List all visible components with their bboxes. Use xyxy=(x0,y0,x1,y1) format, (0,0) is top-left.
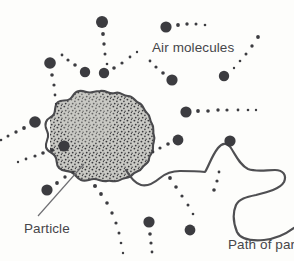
molecule-trail xyxy=(93,184,124,254)
brownian-motion-diagram: Air molecules Particle Path of partic xyxy=(0,0,294,261)
air-molecule xyxy=(96,16,108,28)
air-molecule xyxy=(44,57,56,69)
molecule-trail xyxy=(168,176,194,215)
molecule-trail xyxy=(149,60,165,75)
label-air-molecules: Air molecules xyxy=(152,41,234,55)
molecule-trail xyxy=(61,54,77,67)
air-molecule xyxy=(224,135,235,146)
air-molecule xyxy=(180,106,191,117)
air-molecule xyxy=(185,225,196,236)
molecule-trail xyxy=(196,108,257,113)
air-molecule xyxy=(173,135,184,146)
air-molecule xyxy=(99,68,109,78)
air-molecule xyxy=(41,184,52,195)
label-particle: Particle xyxy=(24,222,70,236)
label-path-of-particle: Path of partic xyxy=(228,238,294,252)
air-molecule xyxy=(80,67,90,77)
air-molecule xyxy=(58,140,69,151)
particle-blob xyxy=(45,85,160,190)
air-molecule xyxy=(166,74,177,85)
molecule-trail xyxy=(233,35,260,69)
air-molecule xyxy=(143,216,154,227)
molecule-trail xyxy=(148,232,153,253)
molecule-trail xyxy=(176,22,206,27)
air-molecule xyxy=(29,116,41,128)
molecule-trail xyxy=(101,32,108,65)
molecule-trail xyxy=(0,126,26,141)
molecule-trail xyxy=(152,142,170,153)
molecule-trail xyxy=(212,171,220,192)
molecule-trail xyxy=(112,51,138,70)
molecule-trail xyxy=(50,73,57,105)
air-molecule xyxy=(160,21,171,32)
air-molecule xyxy=(219,71,229,81)
